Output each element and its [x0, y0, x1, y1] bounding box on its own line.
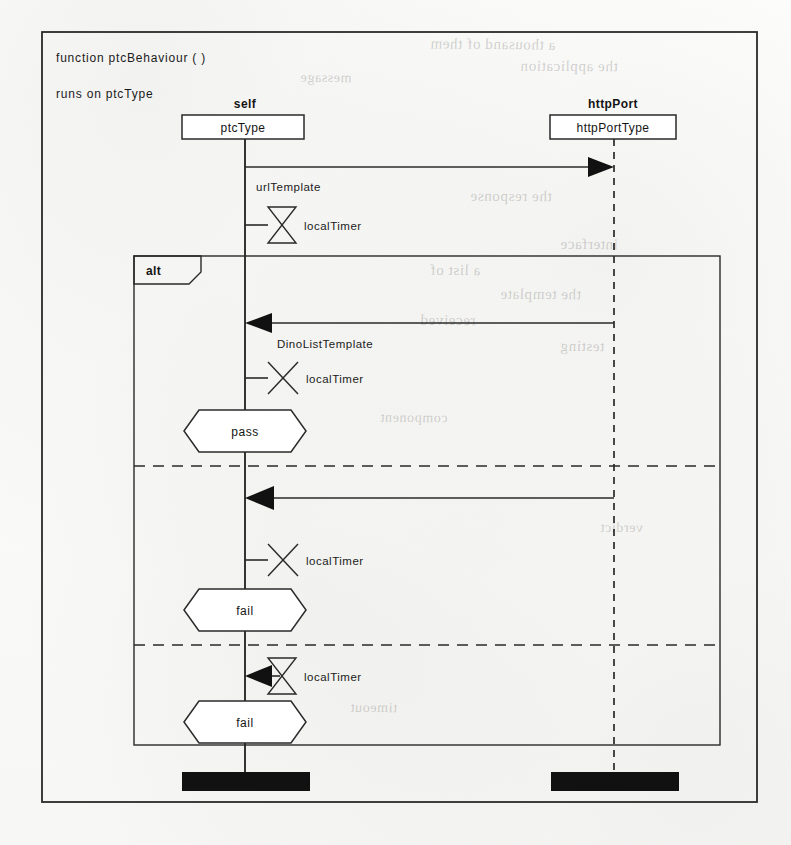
- lifeline-terminator-self: [182, 772, 310, 791]
- sequence-diagram-figure: function ptcBehaviour ( ) runs on ptcTyp…: [0, 0, 791, 845]
- timer-label-stop-2: localTimer: [306, 555, 364, 567]
- timer-label-timeout: localTimer: [304, 671, 362, 683]
- message-arrowhead-unlabeled: [245, 486, 274, 510]
- lifeline-type-self: ptcType: [221, 121, 266, 135]
- message-arrowhead-urlTemplate: [588, 157, 614, 177]
- figure-canvas: a thousand of themthe applicationmessage…: [0, 0, 791, 845]
- message-arrowhead-DinoListTemplate: [245, 313, 272, 333]
- lifeline-name-self: self: [234, 97, 257, 111]
- lifeline-name-httpPort: httpPort: [588, 97, 638, 111]
- timer-label-stop-1: localTimer: [306, 373, 364, 385]
- timer-start-hourglass-icon[interactable]: [268, 207, 296, 243]
- lifeline-terminator-httpPort: [551, 772, 679, 791]
- timer-timeout-arrowhead: [245, 665, 272, 687]
- function-signature: function ptcBehaviour ( ): [56, 51, 206, 65]
- verdict-label-fail-1: fail: [236, 604, 254, 618]
- lifeline-type-httpPort: httpPortType: [577, 121, 650, 135]
- alt-operator-label: alt: [146, 264, 161, 278]
- timer-label-start-1: localTimer: [304, 220, 362, 232]
- alt-operator-tag: [134, 256, 201, 284]
- message-label-DinoListTemplate: DinoListTemplate: [277, 338, 373, 350]
- function-frame: [42, 32, 757, 802]
- verdict-label-pass: pass: [231, 425, 259, 439]
- runs-on-clause: runs on ptcType: [56, 87, 153, 101]
- alt-fragment-box: [134, 256, 720, 745]
- message-label-urlTemplate: urlTemplate: [256, 181, 321, 193]
- verdict-label-fail-2: fail: [236, 716, 254, 730]
- timer-stop-cross-icon-1[interactable]: [268, 362, 298, 394]
- timer-stop-cross-icon-2[interactable]: [268, 544, 298, 576]
